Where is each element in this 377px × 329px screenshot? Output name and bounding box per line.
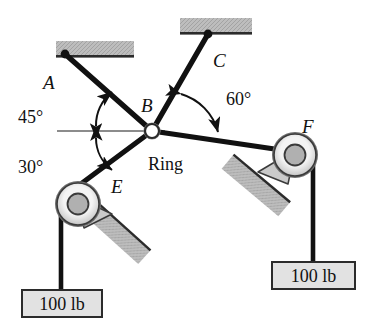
ring-joint-b [143, 122, 160, 139]
weight-box-left: 100 lb [22, 290, 102, 317]
label-point-b: B [141, 95, 153, 116]
angle-arc-45 [96, 92, 112, 126]
cable-ba [65, 54, 152, 131]
label-point-e: E [110, 176, 123, 197]
label-ring: Ring [148, 154, 183, 174]
anchor-point-c [204, 30, 213, 39]
angle-arc-60 [181, 94, 218, 132]
ceiling-support-c [180, 18, 252, 35]
anchor-point-a [61, 50, 70, 59]
weight-right-label: 100 lb [291, 266, 337, 286]
label-angle-45: 45° [18, 107, 43, 127]
diagram-canvas: 100 lb 100 lb A B C E F 45° 30° 60° Ring [0, 0, 377, 329]
statics-diagram: 100 lb 100 lb A B C E F 45° 30° 60° Ring [0, 0, 377, 329]
pulley-e [55, 181, 101, 227]
cable-bc [152, 34, 208, 131]
label-angle-60: 60° [226, 89, 251, 109]
pulley-f [272, 132, 318, 178]
label-point-c: C [213, 50, 226, 71]
weight-left-label: 100 lb [39, 294, 85, 314]
weight-box-right: 100 lb [272, 262, 355, 289]
label-point-f: F [301, 116, 314, 137]
label-angle-30: 30° [18, 157, 43, 177]
label-point-a: A [41, 72, 55, 93]
